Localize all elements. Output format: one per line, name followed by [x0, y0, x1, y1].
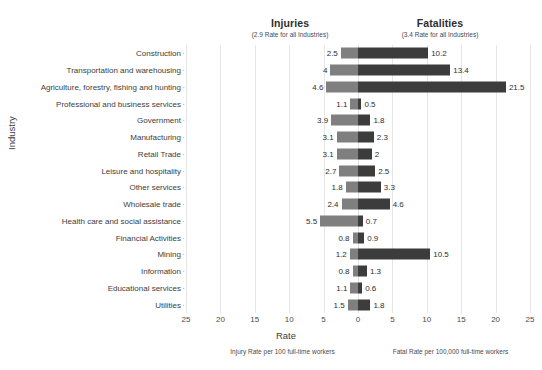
injury-value-label: 1.2	[336, 250, 347, 259]
fatality-value-label: 2.3	[377, 133, 388, 142]
fatalities-title: Fatalities	[352, 17, 528, 29]
category-label: Retail Trade	[138, 149, 181, 158]
fatality-value-label: 1.8	[373, 116, 384, 125]
injury-value-label: 2.7	[325, 166, 336, 175]
fatality-bar	[358, 165, 375, 176]
y-tick-mark: ·	[182, 49, 185, 58]
x-axis-title-text: Rate	[276, 330, 296, 341]
fatality-value-label: 21.5	[509, 82, 525, 91]
injury-value-label: 1.8	[332, 183, 343, 192]
gridline	[530, 45, 531, 313]
y-tick-mark: ·	[182, 166, 185, 175]
bar-row: Health care and social assistance·5.50.7	[186, 213, 530, 230]
injury-bar	[320, 215, 358, 226]
category-label: Educational services	[108, 283, 181, 292]
fatality-bar	[358, 48, 428, 59]
bar-row: Educational services·1.10.6	[186, 280, 530, 297]
injury-value-label: 4	[323, 66, 327, 75]
x-tick-label: 15	[457, 315, 466, 324]
injury-bar	[330, 65, 358, 76]
fatality-value-label: 0.9	[367, 233, 378, 242]
injury-value-label: 1.1	[336, 99, 347, 108]
fatality-bar	[358, 132, 374, 143]
injury-bar	[337, 132, 358, 143]
category-label: Information	[141, 267, 181, 276]
y-tick-mark: ·	[182, 216, 185, 225]
bar-row: Wholesale trade·2.44.6	[186, 196, 530, 213]
fatality-value-label: 1.8	[373, 300, 384, 309]
category-label: Government	[137, 116, 181, 125]
bar-row: Leisure and hospitality·2.72.5	[186, 162, 530, 179]
fatality-bar	[358, 98, 361, 109]
x-tick-label: 10	[285, 315, 294, 324]
fatality-bar	[358, 65, 450, 76]
injury-value-label: 4.6	[312, 82, 323, 91]
injury-value-label: 0.8	[338, 233, 349, 242]
fatality-value-label: 0.6	[365, 283, 376, 292]
injury-bar	[339, 165, 358, 176]
y-tick-mark: ·	[182, 250, 185, 259]
injury-value-label: 3.1	[323, 133, 334, 142]
fatality-value-label: 3.3	[384, 183, 395, 192]
fatality-value-label: 1.3	[370, 267, 381, 276]
x-tick-label: 0	[356, 315, 360, 324]
x-tick-label: 25	[526, 315, 535, 324]
fatality-value-label: 2.5	[378, 166, 389, 175]
injuries-title: Injuries	[210, 17, 370, 29]
fatality-value-label: 0.5	[364, 99, 375, 108]
category-label: Mining	[157, 250, 181, 259]
bar-row: Retail Trade·3.12	[186, 146, 530, 163]
fatality-value-label: 2	[375, 149, 379, 158]
injuries-subtitle: (2.9 Rate for all Industries)	[210, 31, 370, 38]
fatality-bar	[358, 81, 506, 92]
injury-bar	[346, 182, 358, 193]
bar-row: Professional and business services·1.10.…	[186, 95, 530, 112]
bar-row: Utilities·1.51.8	[186, 296, 530, 313]
y-tick-mark: ·	[182, 283, 185, 292]
y-tick-mark: ·	[182, 66, 185, 75]
injury-value-label: 2.4	[327, 200, 338, 209]
fatality-bar	[358, 115, 370, 126]
x-tick-label: 25	[182, 315, 191, 324]
category-label: Wholesale trade	[123, 200, 181, 209]
fatality-bar	[358, 232, 364, 243]
fatality-bar	[358, 249, 430, 260]
x-tick-label: 15	[250, 315, 259, 324]
injury-value-label: 2.5	[327, 49, 338, 58]
y-tick-mark: ·	[182, 233, 185, 242]
fatality-value-label: 13.4	[453, 66, 469, 75]
injuries-column-header: Injuries (2.9 Rate for all Industries)	[210, 17, 370, 38]
category-label: Other services	[129, 183, 181, 192]
y-tick-mark: ·	[182, 99, 185, 108]
x-axis-ticks: 2520151050510152025	[186, 315, 530, 329]
y-tick-mark: ·	[182, 200, 185, 209]
fatality-value-label: 4.6	[393, 200, 404, 209]
fatality-value-label: 10.2	[431, 49, 447, 58]
x-tick-label: 10	[422, 315, 431, 324]
x-axis-title: Rate	[0, 330, 542, 341]
fatality-bar	[358, 182, 381, 193]
x-tick-label: 20	[216, 315, 225, 324]
injury-fatality-rate-chart: Injuries (2.9 Rate for all Industries) F…	[0, 0, 542, 370]
injury-bar	[348, 299, 358, 310]
category-label: Professional and business services	[56, 99, 181, 108]
injury-value-label: 1.5	[334, 300, 345, 309]
injury-bar	[341, 48, 358, 59]
category-label: Utilities	[155, 300, 181, 309]
y-tick-mark: ·	[182, 82, 185, 91]
footnote-fatal-rate: Fatal Rate per 100,000 full-time workers	[358, 348, 542, 355]
injury-bar	[350, 98, 358, 109]
fatality-value-label: 10.5	[433, 250, 449, 259]
fatality-bar	[358, 199, 390, 210]
fatality-bar	[358, 299, 370, 310]
injury-bar	[326, 81, 358, 92]
injury-bar	[337, 148, 358, 159]
fatality-bar	[358, 282, 362, 293]
fatality-bar	[358, 148, 372, 159]
y-tick-mark: ·	[182, 183, 185, 192]
x-tick-label: 5	[321, 315, 325, 324]
bar-row: Information·0.81.3	[186, 263, 530, 280]
injury-value-label: 1.1	[336, 283, 347, 292]
injury-bar	[350, 249, 358, 260]
bar-row: Other services·1.83.3	[186, 179, 530, 196]
